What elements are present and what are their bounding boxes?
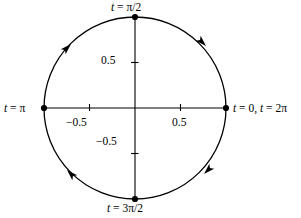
label-bottom-value: 3π/2 <box>122 202 143 214</box>
label-t-pi-over-2: t = π/2 <box>111 2 141 14</box>
label-t-pi: t = π <box>4 103 25 115</box>
x-tick-label-positive-half: 0.5 <box>172 117 186 129</box>
label-left-value: π <box>19 102 25 114</box>
label-right-value: 0, <box>248 102 257 114</box>
label-right-eq2: = <box>263 102 275 114</box>
unit-circle-figure: t = π/2 t = 0, t = 2π t = π t = 3π/2 0.5… <box>0 0 301 218</box>
y-tick-label-positive-half: 0.5 <box>101 55 115 67</box>
label-t-zero-t-2pi: t = 0, t = 2π <box>233 103 287 115</box>
label-top-value: π/2 <box>126 1 141 13</box>
label-left-eq: = <box>7 102 19 114</box>
label-right-value2: 2π <box>275 102 287 114</box>
x-tick-label-negative-half: −0.5 <box>66 117 87 129</box>
label-top-eq: = <box>114 1 126 13</box>
label-t-3pi-over-2: t = 3π/2 <box>107 203 143 215</box>
label-bottom-eq: = <box>110 202 122 214</box>
y-tick-label-negative-half: −0.5 <box>96 136 117 148</box>
label-right-eq: = <box>236 102 248 114</box>
point-marker-t-zero <box>223 105 229 111</box>
direction-arrow-lower-left <box>65 168 78 181</box>
point-marker-t-pi-over-2 <box>132 14 138 20</box>
direction-arrow-lower-right <box>202 164 215 177</box>
point-marker-t-pi <box>41 105 47 111</box>
